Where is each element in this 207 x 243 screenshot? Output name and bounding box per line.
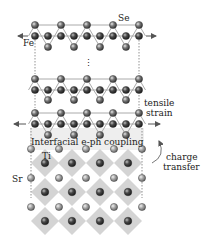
se-atom <box>109 109 116 116</box>
fe-atom <box>122 86 129 93</box>
se-atom <box>57 109 64 116</box>
se-atom <box>57 21 64 28</box>
fe-label: Fe <box>23 38 34 48</box>
se-atom <box>122 43 129 50</box>
fe-atom <box>31 86 38 93</box>
se-atom <box>31 109 38 116</box>
fe-atom <box>83 32 90 39</box>
sr-atom <box>110 203 117 210</box>
se-atom <box>109 21 116 28</box>
ti-atom <box>68 159 76 167</box>
fe-atom <box>135 32 142 39</box>
ti-atom <box>68 188 76 196</box>
sr-atom <box>138 203 145 210</box>
tensile-label-2: strain <box>146 108 173 118</box>
sr-atom <box>110 174 117 181</box>
atoms <box>27 21 145 224</box>
ti-atom <box>96 159 104 167</box>
interfacial-coupling-label: Interfacial e-ph coupling <box>31 137 144 147</box>
sr-atom <box>55 174 62 181</box>
fe-atom <box>135 120 142 127</box>
sr-atom <box>27 174 34 181</box>
charge-label-2: transfer <box>163 162 200 172</box>
sr-atom <box>82 174 89 181</box>
feSe-sto-diagram: Se Fe ⋮ tensile strain Interfacial e-ph … <box>0 0 207 243</box>
fe-atom <box>109 32 116 39</box>
fe-atom <box>96 120 103 127</box>
fe-atom <box>44 32 51 39</box>
se-atom <box>44 43 51 50</box>
se-atom <box>122 96 129 103</box>
se-atom <box>57 75 64 82</box>
ti-atom <box>124 217 132 225</box>
tensile-label-1: tensile <box>144 98 174 108</box>
ti-atom <box>124 188 132 196</box>
charge-label-1: charge <box>166 152 198 162</box>
se-atom <box>109 75 116 82</box>
fe-atom <box>83 86 90 93</box>
se-atom <box>83 109 90 116</box>
fe-atom <box>44 86 51 93</box>
fe-atom <box>57 32 64 39</box>
fe-atom <box>70 120 77 127</box>
se-atom <box>96 96 103 103</box>
ti-label: Ti <box>42 151 51 161</box>
se-atom <box>31 75 38 82</box>
se-atom <box>44 96 51 103</box>
sr-atom <box>55 203 62 210</box>
ti-atom <box>41 188 49 196</box>
ti-atom <box>124 159 132 167</box>
sr-label: Sr <box>12 174 23 184</box>
ti-atom <box>68 217 76 225</box>
se-atom <box>135 109 142 116</box>
fe-atom <box>57 120 64 127</box>
fe-atom <box>122 32 129 39</box>
se-atom <box>70 43 77 50</box>
fe-atom <box>135 86 142 93</box>
ti-atom <box>96 188 104 196</box>
se-atom <box>135 75 142 82</box>
se-atom <box>83 21 90 28</box>
se-atom <box>31 21 38 28</box>
ellipsis-label: ⋮ <box>84 58 93 68</box>
fe-atom <box>96 86 103 93</box>
fe-atom <box>122 120 129 127</box>
sr-atom <box>82 203 89 210</box>
sr-atom <box>27 203 34 210</box>
fe-atom <box>96 32 103 39</box>
fe-atom <box>109 120 116 127</box>
fe-atom <box>57 86 64 93</box>
se-atom <box>83 75 90 82</box>
fe-atom <box>109 86 116 93</box>
ti-atom <box>96 217 104 225</box>
fe-atom <box>31 120 38 127</box>
se-label: Se <box>118 13 130 23</box>
se-atom <box>135 21 142 28</box>
fe-atom <box>83 120 90 127</box>
fe-atom <box>70 86 77 93</box>
sr-atom <box>138 174 145 181</box>
fe-atom <box>44 120 51 127</box>
charge-transfer-arrow <box>152 141 161 163</box>
se-atom <box>96 43 103 50</box>
fe-atom <box>70 32 77 39</box>
se-atom <box>70 96 77 103</box>
ti-atom <box>41 217 49 225</box>
